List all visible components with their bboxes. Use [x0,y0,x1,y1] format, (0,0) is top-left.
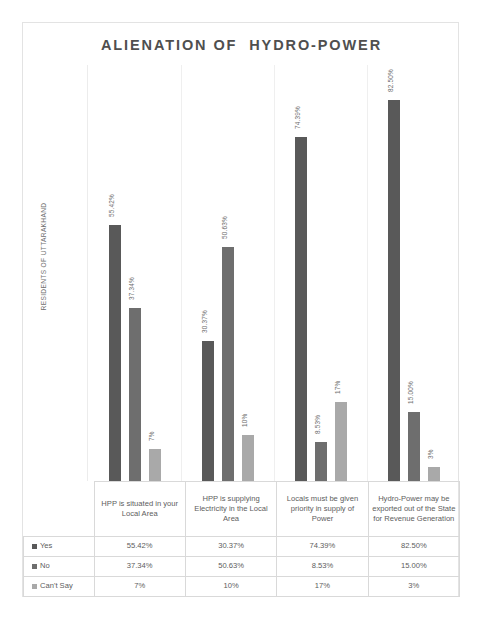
bar[interactable] [408,412,420,481]
page-title: ALIENATION OF HYDRO-POWER [23,37,460,53]
table-cell-value: 74.39% [277,537,368,557]
bar[interactable] [388,100,400,481]
bar-value-label: 3% [427,449,434,459]
bar-group-bars: 74.39%8.53%17% [274,65,367,481]
bar-value-label: 82.50% [387,69,394,92]
bar-group-bars: 30.37%50.63%10% [181,65,274,481]
bar-column: 15.00% [408,65,420,481]
bar-value-label: 10% [241,414,248,427]
table-cell-value: 82.50% [368,537,459,557]
table-cell-value: 55.42% [94,537,185,557]
table-cell-value: 37.34% [94,557,185,577]
table-header-row: HPP is situated in your Local AreaHPP is… [24,482,460,537]
table-cell-value: 50.63% [185,557,276,577]
bar[interactable] [335,402,347,481]
bar[interactable] [222,247,234,481]
bar-value-label: 7% [148,431,155,441]
bar[interactable] [295,137,307,481]
legend-item-yes[interactable]: Yes [24,537,95,557]
legend-label: Can't Say [40,581,73,590]
bar-value-label: 50.63% [221,216,228,239]
table-row: Can't Say7%10%17%3% [24,577,460,597]
bar[interactable] [428,467,440,481]
bar-value-label: 17% [334,381,341,394]
bar-column: 74.39% [295,65,307,481]
table-cell-value: 17% [277,577,368,597]
bar[interactable] [109,225,121,481]
bar-column: 7% [149,65,161,481]
table-row: Yes55.42%30.37%74.39%82.50% [24,537,460,557]
bar-group: 30.37%50.63%10% [181,65,274,481]
bar-column: 8.53% [315,65,327,481]
plot-area: 55.42%37.34%7%30.37%50.63%10%74.39%8.53%… [87,65,459,481]
bar[interactable] [202,341,214,481]
bar-column: 17% [335,65,347,481]
bar-value-label: 74.39% [294,106,301,129]
table-cell-value: 15.00% [368,557,459,577]
bar-column: 50.63% [222,65,234,481]
bar[interactable] [315,442,327,481]
legend-item-can-t-say[interactable]: Can't Say [24,577,95,597]
legend-swatch-icon [32,544,37,549]
bar-value-label: 37.34% [128,277,135,300]
legend-item-no[interactable]: No [24,557,95,577]
legend-label: No [40,561,50,570]
y-axis-label: RESIDENTS OF UTTARAKHAND [40,177,47,337]
table-cell-value: 10% [185,577,276,597]
table-corner-cell [24,482,95,537]
table-body: HPP is situated in your Local AreaHPP is… [24,482,460,597]
table-cell-value: 30.37% [185,537,276,557]
table-column-header: HPP is situated in your Local Area [94,482,185,537]
bar[interactable] [149,449,161,481]
plot-region: RESIDENTS OF UTTARAKHAND 55.42%37.34%7%3… [23,65,460,481]
bar[interactable] [129,308,141,481]
table-column-header: Locals must be given priority in supply … [277,482,368,537]
bar-column: 55.42% [109,65,121,481]
bar-group-bars: 82.50%15.00%3% [367,65,460,481]
bar-value-label: 30.37% [201,310,208,333]
table-cell-value: 3% [368,577,459,597]
legend-label: Yes [40,541,52,550]
bar-group-bars: 55.42%37.34%7% [88,65,181,481]
bar-column: 30.37% [202,65,214,481]
bar[interactable] [242,435,254,481]
table-cell-value: 8.53% [277,557,368,577]
bar-column: 82.50% [388,65,400,481]
table-column-header: Hydro-Power may be exported out of the S… [368,482,459,537]
legend-swatch-icon [32,564,37,569]
bar-value-label: 15.00% [407,381,414,404]
bar-group: 55.42%37.34%7% [88,65,181,481]
data-table: HPP is situated in your Local AreaHPP is… [23,481,460,597]
bar-value-label: 55.42% [108,194,115,217]
bar-column: 37.34% [129,65,141,481]
table-cell-value: 7% [94,577,185,597]
legend-swatch-icon [32,584,37,589]
bar-column: 10% [242,65,254,481]
bar-group: 82.50%15.00%3% [367,65,460,481]
bar-value-label: 8.53% [314,415,321,434]
bar-column: 3% [428,65,440,481]
table-column-header: HPP is supplying Electricity in the Loca… [185,482,276,537]
table-row: No37.34%50.63%8.53%15.00% [24,557,460,577]
chart-frame: ALIENATION OF HYDRO-POWER RESIDENTS OF U… [22,22,459,597]
bar-group: 74.39%8.53%17% [274,65,367,481]
